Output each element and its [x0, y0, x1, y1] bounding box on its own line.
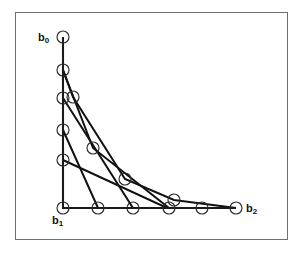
axis-label-b2-base: b	[246, 202, 253, 214]
control-point-marker-cp-v1	[57, 64, 69, 76]
axis-label-b1: b1	[52, 215, 63, 226]
figure-root: b0 b1 b2	[0, 0, 301, 253]
control-polygon-polygon-degree-5	[63, 37, 236, 208]
axis-label-b0: b0	[38, 32, 49, 43]
control-point-marker-cp-off3	[119, 173, 131, 185]
control-point-marker-cp-off1	[67, 91, 79, 103]
axis-label-b0-sub: 0	[45, 36, 49, 45]
control-point-marker-cp-v3	[57, 124, 69, 136]
control-point-marker-cp-h4	[196, 202, 208, 214]
control-point-group	[57, 31, 242, 214]
control-point-marker-cp-b2	[230, 202, 242, 214]
control-point-marker-cp-h2	[127, 202, 139, 214]
axis-label-b1-sub: 1	[59, 219, 63, 228]
axis-label-b0-base: b	[38, 31, 45, 43]
control-point-marker-cp-off2	[87, 142, 99, 154]
control-point-marker-cp-h1	[92, 202, 104, 214]
axis-label-b2-sub: 2	[253, 207, 257, 216]
axis-label-b1-base: b	[52, 214, 59, 226]
control-point-marker-cp-b0	[57, 31, 69, 43]
axis-label-b2: b2	[246, 203, 257, 214]
control-point-marker-cp-h3	[163, 202, 175, 214]
control-point-marker-cp-v4	[57, 154, 69, 166]
control-point-marker-cp-b1	[57, 202, 69, 214]
control-polygon-group	[63, 37, 236, 208]
